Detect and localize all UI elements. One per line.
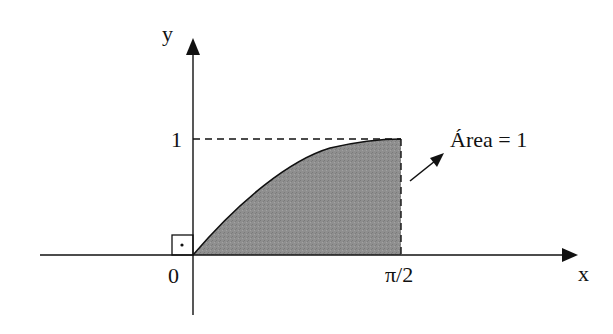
annotation-arrow-line [410,161,435,181]
y-tick-label: 1 [171,127,182,152]
origin-label: 0 [168,263,179,288]
area-diagram: y x 0 1 π/2 Área = 1 [0,0,613,334]
right-angle-dot [180,243,183,246]
x-axis-label: x [578,261,589,286]
x-axis-arrow-icon [562,248,578,262]
x-tick-label: π/2 [385,262,413,287]
y-axis-arrow-icon [186,38,200,55]
area-annotation: Área = 1 [450,127,527,152]
annotation-arrow-icon [430,153,444,167]
shaded-area [193,139,401,255]
y-axis-label: y [162,21,173,46]
